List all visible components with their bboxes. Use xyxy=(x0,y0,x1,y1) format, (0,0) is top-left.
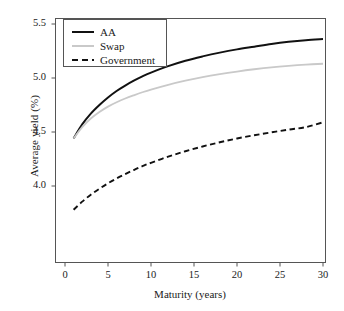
legend-item-government[interactable]: Government xyxy=(64,53,168,68)
legend-item-aa[interactable]: AA xyxy=(64,25,168,40)
chart-figure: Average yield (%) 4.04.55.05.5 051015202… xyxy=(0,0,344,311)
legend-label: AA xyxy=(100,25,116,40)
curve-government xyxy=(74,122,323,209)
legend-label: Swap xyxy=(100,39,124,54)
curve-swap xyxy=(74,64,323,139)
plot-area xyxy=(0,0,344,311)
legend-box: AASwapGovernment xyxy=(63,19,167,67)
legend-item-swap[interactable]: Swap xyxy=(64,39,168,54)
legend-label: Government xyxy=(100,53,155,68)
